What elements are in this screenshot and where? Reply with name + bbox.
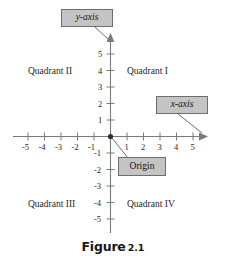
x-tick-label-3: 3 xyxy=(158,143,162,152)
x-tick-label--3: -3 xyxy=(55,143,62,152)
x-axis-leader-line xyxy=(178,114,202,133)
callout-y-axis: y-axis xyxy=(61,9,113,27)
y-tick-label--3: -3 xyxy=(94,182,101,191)
y-axis-arrowhead xyxy=(107,33,115,42)
quadrant-label-2: Quadrant II xyxy=(28,67,72,77)
x-tick-label-1: 1 xyxy=(125,143,129,152)
quadrant-label-4: Quadrant IV xyxy=(127,200,175,210)
y-tick-label--4: -4 xyxy=(94,199,101,208)
y-tick-label-2: 2 xyxy=(98,100,102,109)
callout-origin: Origin xyxy=(118,157,166,176)
x-tick-label-5: 5 xyxy=(191,143,195,152)
x-tick-label--4: -4 xyxy=(39,143,46,152)
y-axis-leader-line xyxy=(95,27,109,40)
y-tick-label-5: 5 xyxy=(98,50,102,59)
figure-caption-word: Figure xyxy=(82,239,126,254)
y-tick-label--5: -5 xyxy=(94,215,101,224)
y-tick-label-1: 1 xyxy=(98,116,102,125)
y-tick-label--1: -1 xyxy=(94,149,101,158)
x-tick-label-4: 4 xyxy=(174,143,178,152)
x-tick-label--2: -2 xyxy=(72,143,79,152)
x-tick-label-2: 2 xyxy=(141,143,145,152)
x-axis-arrowhead xyxy=(199,133,208,141)
figure-caption: Figure2.1 xyxy=(0,237,226,255)
y-tick-label-3: 3 xyxy=(98,83,102,92)
y-tick-label-4: 4 xyxy=(98,67,102,76)
figure-caption-number: 2.1 xyxy=(128,242,145,253)
quadrant-label-3: Quadrant III xyxy=(28,200,75,210)
callout-x-axis: x-axis xyxy=(156,96,208,114)
y-tick-label--2: -2 xyxy=(94,166,101,175)
figure-coordinate-plane: -5 -4 -3 -2 -1 1 2 3 4 5 5 4 3 2 1 -1 -2… xyxy=(0,0,226,259)
coordinate-plane-graphic xyxy=(0,0,226,259)
x-tick-label--5: -5 xyxy=(22,143,29,152)
quadrant-label-1: Quadrant I xyxy=(127,67,168,77)
